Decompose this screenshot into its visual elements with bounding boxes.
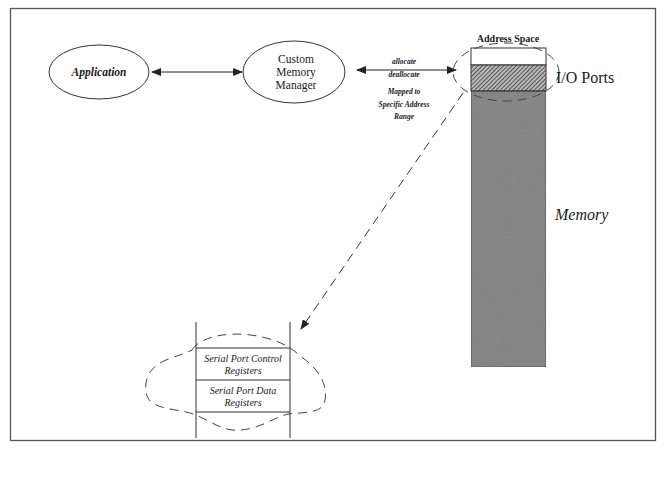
- memory-manager-label-line2: Memory: [276, 66, 316, 79]
- diagram-canvas: Application Custom Memory Manager alloca…: [0, 0, 666, 483]
- memory-manager-label-line3: Manager: [276, 79, 317, 92]
- io-ports-label: I/O Ports: [556, 69, 614, 86]
- address-space-title: Address Space: [477, 33, 540, 44]
- serial-data-registers-row[interactable]: Serial Port Data Registers: [210, 385, 277, 408]
- mapped-note-line3: Range: [393, 112, 415, 121]
- serial-registers-block: Serial Port Control Registers Serial Por…: [196, 322, 290, 438]
- mapped-note-line1: Mapped to: [387, 87, 421, 96]
- application-label: Application: [71, 66, 127, 79]
- io-to-serial-arrow: [301, 93, 463, 329]
- serial-data-line1: Serial Port Data: [210, 385, 277, 396]
- mapped-note-line2: Specific Address: [379, 100, 430, 109]
- serial-control-registers-row[interactable]: Serial Port Control Registers: [204, 353, 282, 376]
- application-node[interactable]: Application: [49, 45, 149, 99]
- address-space-top-region: [471, 48, 546, 65]
- deallocate-label: deallocate: [388, 70, 420, 79]
- serial-data-line2: Registers: [223, 397, 261, 408]
- io-ports-region[interactable]: [471, 65, 546, 91]
- allocate-label: allocate: [392, 57, 417, 66]
- memory-region[interactable]: [471, 91, 546, 367]
- address-space: Address Space: [471, 33, 546, 367]
- memory-manager-label-line1: Custom: [278, 53, 314, 65]
- serial-control-line2: Registers: [223, 365, 261, 376]
- memory-label: Memory: [554, 206, 609, 224]
- serial-control-line1: Serial Port Control: [204, 353, 282, 364]
- memory-manager-node[interactable]: Custom Memory Manager: [243, 41, 345, 103]
